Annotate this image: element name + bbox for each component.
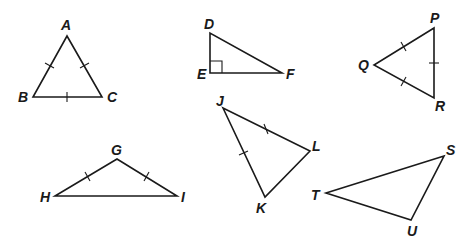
vertex-label-q: Q — [358, 57, 369, 73]
right-angle-marker-e — [210, 61, 222, 73]
triangle-abc: A B C — [18, 17, 118, 105]
vertex-label-k: K — [256, 200, 267, 216]
triangle-abc-outline — [33, 36, 102, 97]
tick-mark-gh — [85, 172, 90, 181]
vertex-label-h: H — [40, 189, 51, 205]
vertex-label-d: D — [204, 16, 214, 32]
triangle-pqr: P Q R — [358, 10, 446, 114]
triangle-ghi-outline — [55, 159, 177, 196]
vertex-label-f: F — [286, 66, 295, 82]
vertex-label-s: S — [446, 142, 456, 158]
triangle-stu: S T U — [311, 142, 456, 239]
triangle-pqr-outline — [374, 28, 434, 98]
vertex-label-t: T — [311, 187, 321, 203]
triangle-ghi: G H I — [40, 142, 186, 205]
vertex-label-l: L — [312, 138, 321, 154]
vertex-label-g: G — [111, 142, 122, 158]
triangle-stu-outline — [326, 156, 444, 220]
vertex-label-a: A — [60, 17, 71, 33]
vertex-label-i: I — [181, 189, 186, 205]
triangle-def: D E F — [197, 16, 295, 82]
triangle-def-outline — [210, 33, 282, 73]
vertex-label-r: R — [435, 98, 446, 114]
vertex-label-p: P — [430, 10, 440, 26]
triangle-jkl-outline — [223, 108, 310, 197]
vertex-label-b: B — [18, 89, 28, 105]
triangles-diagram: A B C D E F P Q R G H I J K L — [0, 0, 474, 246]
vertex-label-j: J — [216, 93, 225, 109]
vertex-label-u: U — [407, 223, 418, 239]
triangle-jkl: J K L — [216, 93, 321, 216]
vertex-label-c: C — [107, 89, 118, 105]
vertex-label-e: E — [197, 66, 207, 82]
